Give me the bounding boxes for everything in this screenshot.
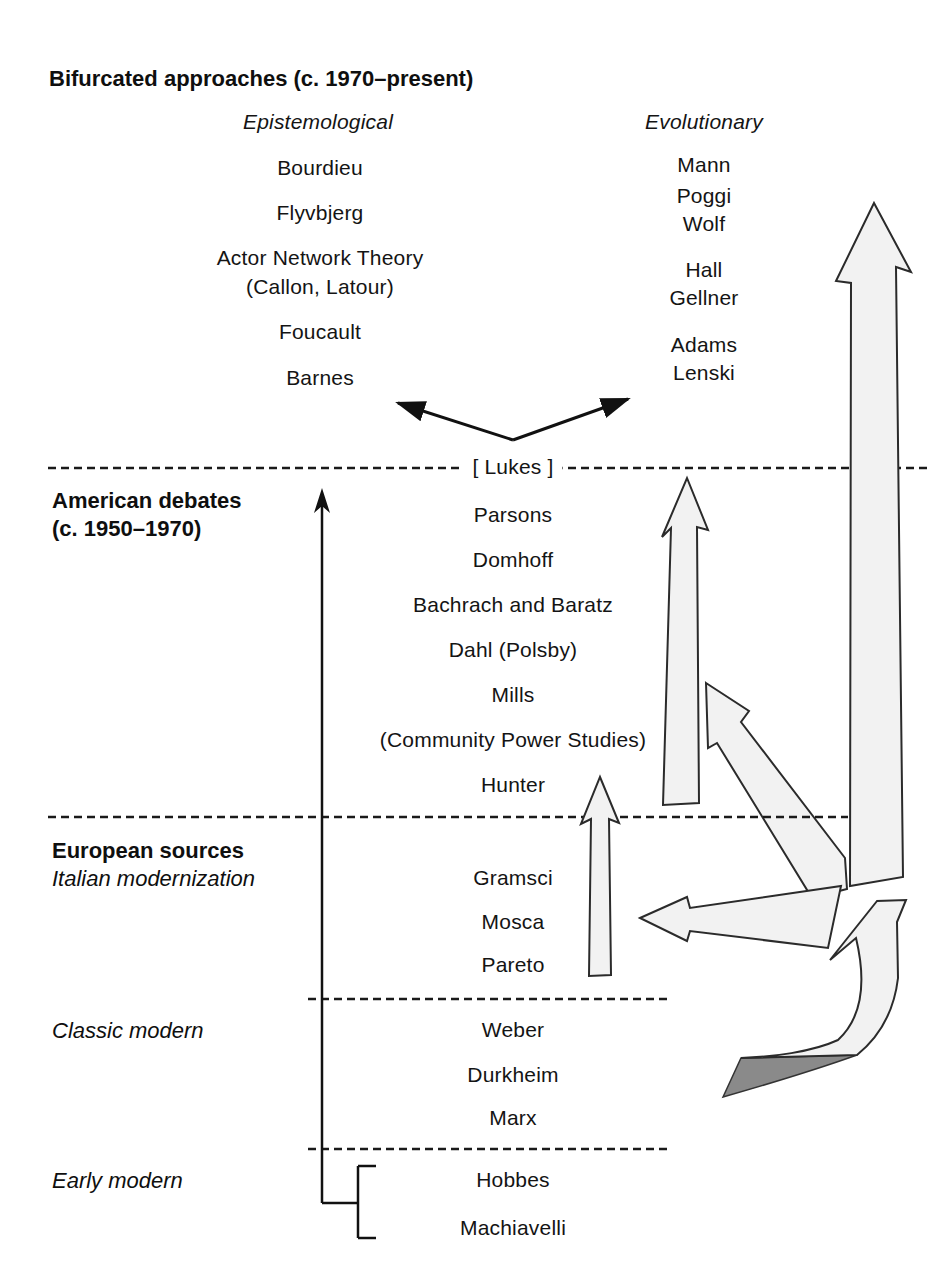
name-bourdieu: Bourdieu <box>277 156 363 180</box>
bifurcation-arrow-left <box>398 403 513 440</box>
name-pareto: Pareto <box>481 953 544 977</box>
section-label-european-sources: European sources <box>52 838 244 864</box>
name-domhoff: Domhoff <box>473 548 553 572</box>
name-adams: Adams <box>671 333 737 357</box>
name-foucault: Foucault <box>279 320 361 344</box>
section-sublabel-american-dates: (c. 1950–1970) <box>52 516 201 542</box>
tall-right-block-arrow <box>836 203 911 886</box>
section-label-american-debates: American debates <box>52 488 242 514</box>
name-hall: Hall <box>686 258 723 282</box>
name-gellner: Gellner <box>669 286 738 310</box>
name-hunter: Hunter <box>481 773 545 797</box>
name-marx: Marx <box>489 1106 536 1130</box>
name-machiavelli: Machiavelli <box>460 1216 566 1240</box>
name-lenski: Lenski <box>673 361 735 385</box>
medium-up-block-arrow <box>662 478 708 805</box>
name-weber: Weber <box>482 1018 544 1042</box>
name-bachrach-and-baratz: Bachrach and Baratz <box>413 593 613 617</box>
name-hobbes: Hobbes <box>476 1168 550 1192</box>
curved-arrow-dark-tail <box>723 1055 857 1097</box>
name-gramsci: Gramsci <box>473 866 553 890</box>
name-community-power-studies: (Community Power Studies) <box>380 728 646 752</box>
section-label-classic-modern: Classic modern <box>52 1018 204 1044</box>
section-label-early-modern: Early modern <box>52 1168 183 1194</box>
figure-title: Bifurcated approaches (c. 1970–present) <box>49 66 473 92</box>
left-block-arrow <box>640 886 841 948</box>
name-wolf: Wolf <box>683 212 725 236</box>
name-barnes: Barnes <box>286 366 354 390</box>
name-flyvbjerg: Flyvbjerg <box>277 201 364 225</box>
name-mills: Mills <box>492 683 535 707</box>
name-durkheim: Durkheim <box>467 1063 558 1087</box>
name-dahl-polsby: Dahl (Polsby) <box>449 638 578 662</box>
name-mosca: Mosca <box>482 910 545 934</box>
name-poggi: Poggi <box>677 184 732 208</box>
name-lukes: [ Lukes ] <box>463 455 562 479</box>
bifurcation-arrow-right <box>513 399 628 440</box>
diagonal-up-left-block-arrow <box>706 683 847 898</box>
column-label-epistemological: Epistemological <box>243 110 393 134</box>
section-sublabel-italian-modernization: Italian modernization <box>52 866 255 892</box>
figure-page: Bifurcated approaches (c. 1970–present) … <box>0 0 951 1281</box>
column-label-evolutionary: Evolutionary <box>645 110 763 134</box>
name-mann: Mann <box>677 153 730 177</box>
small-up-block-arrow <box>581 777 619 976</box>
name-parsons: Parsons <box>474 503 552 527</box>
name-callon-latour: (Callon, Latour) <box>246 275 394 299</box>
name-actor-network-theory: Actor Network Theory <box>217 246 424 270</box>
